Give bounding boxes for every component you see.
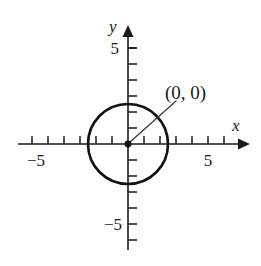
y-axis-label: y (107, 17, 117, 36)
origin-leader-line (129, 101, 176, 143)
origin-point-label: (0, 0) (165, 82, 206, 104)
coordinate-plane-diagram: −5 5 x 5 (0, 0, 261, 266)
y-axis-arrow-icon (123, 25, 134, 37)
origin-point-marker (125, 141, 132, 148)
x-axis-group: −5 5 x (18, 116, 250, 170)
origin-annotation-group: (0, 0) (125, 82, 207, 147)
y-axis-group: 5 −5 y (104, 17, 137, 250)
math-figure: −5 5 x 5 (0, 0, 261, 266)
y-tick-label-neg-five: −5 (104, 215, 122, 234)
y-tick-label-pos-five: 5 (111, 39, 120, 58)
x-axis-arrow-icon (238, 139, 250, 150)
x-tick-label-neg-five: −5 (27, 151, 45, 170)
x-tick-label-pos-five: 5 (204, 151, 213, 170)
x-axis-label: x (231, 116, 240, 135)
